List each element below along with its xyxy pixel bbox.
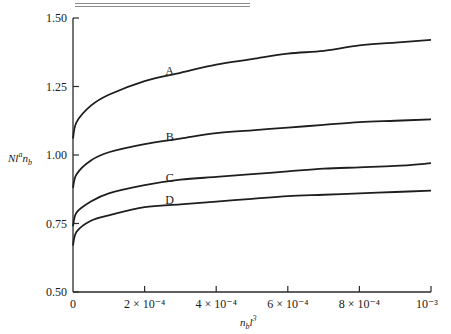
curve-label-a: A xyxy=(165,64,174,78)
curves xyxy=(73,40,431,246)
curve-c xyxy=(73,163,431,226)
y-axis-title: Nlanb xyxy=(7,150,32,167)
x-tick-label: 8 × 10⁻⁴ xyxy=(339,297,380,311)
x-tick-label: 4 × 10⁻⁴ xyxy=(196,297,237,311)
x-tick-label: 6 × 10⁻⁴ xyxy=(267,297,308,311)
x-tick-label: 0 xyxy=(70,297,76,311)
y-tick-label: 0.50 xyxy=(46,285,67,299)
y-tick-label: 1.50 xyxy=(46,11,67,25)
x-tick-label: 10⁻³ xyxy=(416,297,438,311)
curve-labels: ABCD xyxy=(165,64,174,207)
curve-label-c: C xyxy=(166,171,174,185)
curve-b xyxy=(73,119,431,188)
y-tick-label: 1.00 xyxy=(46,148,67,162)
x-axis-title: nbl3 xyxy=(240,314,257,331)
curve-d xyxy=(73,191,431,246)
y-tick-label: 0.75 xyxy=(46,217,67,231)
axes: 0.500.751.001.251.5002 × 10⁻⁴4 × 10⁻⁴6 ×… xyxy=(46,11,438,311)
line-chart: 0.500.751.001.251.5002 × 10⁻⁴4 × 10⁻⁴6 ×… xyxy=(0,0,451,334)
curve-label-b: B xyxy=(166,130,174,144)
y-tick-label: 1.25 xyxy=(46,80,67,94)
curve-label-d: D xyxy=(165,193,174,207)
x-tick-label: 2 × 10⁻⁴ xyxy=(124,297,165,311)
curve-a xyxy=(73,40,431,139)
